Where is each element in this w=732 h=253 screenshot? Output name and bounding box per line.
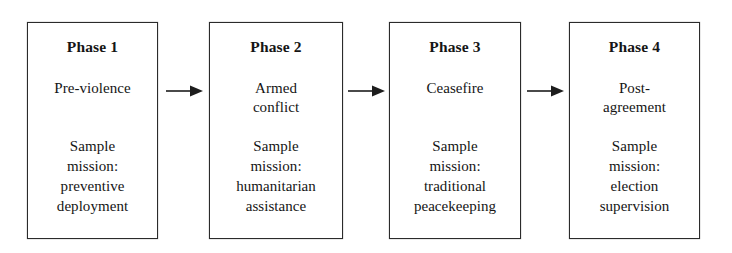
phase-4-state-line: agreement xyxy=(570,98,699,117)
phase-2-state-line: conflict xyxy=(210,98,342,117)
arrow-phase2-to-phase3 xyxy=(348,84,386,98)
phase-4-mission-line: Sample xyxy=(570,136,699,156)
phase-4-mission-line: mission: xyxy=(570,156,699,176)
phase-box-4: Phase 4 Post- agreement Sample mission: … xyxy=(569,22,700,239)
phase-2-mission-line: mission: xyxy=(210,156,342,176)
phase-3-state: Ceasefire xyxy=(390,79,520,98)
phase-1-mission-line: deployment xyxy=(28,196,157,216)
phase-4-mission: Sample mission: election supervision xyxy=(570,136,699,216)
phase-3-title: Phase 3 xyxy=(390,39,520,55)
phase-2-mission-line: humanitarian xyxy=(210,176,342,196)
phase-1-mission-line: mission: xyxy=(28,156,157,176)
phase-3-mission-line: Sample xyxy=(390,136,520,156)
phase-4-mission-line: election xyxy=(570,176,699,196)
phase-4-mission-line: supervision xyxy=(570,196,699,216)
phase-1-state-line: Pre-violence xyxy=(28,79,157,98)
phase-1-mission-line: Sample xyxy=(28,136,157,156)
phase-2-state-line: Armed xyxy=(210,79,342,98)
phase-2-mission-line: assistance xyxy=(210,196,342,216)
phase-4-title: Phase 4 xyxy=(570,39,699,55)
phase-3-mission-line: peacekeeping xyxy=(390,196,520,216)
diagram-canvas: Phase 1 Pre-violence Sample mission: pre… xyxy=(0,0,732,253)
arrow-phase1-to-phase2 xyxy=(166,84,204,98)
phase-4-state-line: Post- xyxy=(570,79,699,98)
arrow-phase3-to-phase4 xyxy=(527,84,565,98)
phase-1-state: Pre-violence xyxy=(28,79,157,98)
phase-1-mission-line: preventive xyxy=(28,176,157,196)
phase-box-1: Phase 1 Pre-violence Sample mission: pre… xyxy=(27,22,158,239)
phase-2-state: Armed conflict xyxy=(210,79,342,117)
phase-3-mission: Sample mission: traditional peacekeeping xyxy=(390,136,520,216)
phase-1-title: Phase 1 xyxy=(28,39,157,55)
phase-2-mission-line: Sample xyxy=(210,136,342,156)
phase-3-mission-line: mission: xyxy=(390,156,520,176)
phase-4-state: Post- agreement xyxy=(570,79,699,117)
phase-2-mission: Sample mission: humanitarian assistance xyxy=(210,136,342,216)
phase-box-3: Phase 3 Ceasefire Sample mission: tradit… xyxy=(389,22,521,239)
phase-3-mission-line: traditional xyxy=(390,176,520,196)
phase-2-title: Phase 2 xyxy=(210,39,342,55)
phase-box-2: Phase 2 Armed conflict Sample mission: h… xyxy=(209,22,343,239)
phase-3-state-line: Ceasefire xyxy=(390,79,520,98)
phase-1-mission: Sample mission: preventive deployment xyxy=(28,136,157,216)
